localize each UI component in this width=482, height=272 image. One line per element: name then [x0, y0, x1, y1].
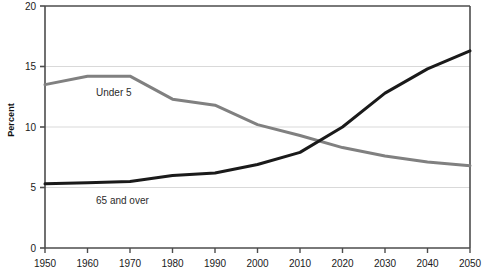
series-annotation-65-and-over: 65 and over — [96, 195, 149, 206]
series-annotation-under-5: Under 5 — [96, 87, 132, 98]
x-tick-label: 1950 — [34, 258, 57, 269]
chart-canvas: 05101520 1950196019701980199020002010202… — [0, 0, 482, 272]
x-tick-label: 2040 — [416, 258, 439, 269]
y-tick-label: 0 — [30, 243, 36, 254]
x-tick-label: 1960 — [76, 258, 99, 269]
y-tick-label: 20 — [25, 1, 37, 12]
chart-background — [0, 0, 482, 272]
x-tick-label: 1980 — [161, 258, 184, 269]
y-tick-label: 5 — [30, 182, 36, 193]
x-tick-label: 2030 — [374, 258, 397, 269]
x-tick-label: 1970 — [119, 258, 142, 269]
line-chart: Percent 05101520 19501960197019801990200… — [0, 0, 482, 272]
x-tick-label: 2050 — [459, 258, 482, 269]
y-tick-label: 10 — [25, 122, 37, 133]
x-tick-label: 1990 — [204, 258, 227, 269]
x-tick-label: 2000 — [246, 258, 269, 269]
y-axis-title-wrap: Percent — [0, 0, 22, 272]
y-tick-label: 15 — [25, 61, 37, 72]
y-axis-title: Percent — [6, 87, 16, 153]
x-tick-label: 2010 — [289, 258, 312, 269]
x-tick-label: 2020 — [331, 258, 354, 269]
